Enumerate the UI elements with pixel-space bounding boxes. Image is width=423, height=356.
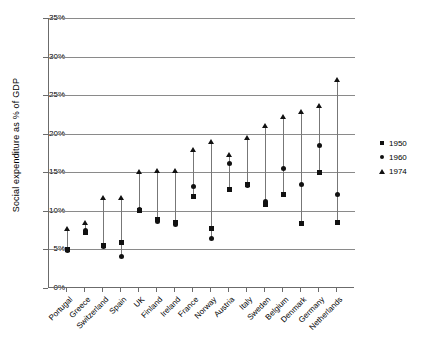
data-point-1974-portugal xyxy=(64,226,70,231)
data-point-1960-france xyxy=(191,184,196,189)
data-point-1974-finland xyxy=(154,168,160,173)
data-point-1974-greece xyxy=(82,220,88,225)
triangle-marker-icon xyxy=(378,169,386,174)
data-point-1960-portugal xyxy=(65,248,70,253)
range-connector xyxy=(139,172,140,211)
data-point-1960-ireland xyxy=(173,222,178,227)
data-point-1974-sweden xyxy=(262,123,268,128)
data-point-1960-netherlands xyxy=(335,192,340,197)
range-connector xyxy=(337,80,338,223)
data-point-1960-germany xyxy=(317,143,322,148)
circle-marker-icon xyxy=(378,155,386,159)
square-marker-icon xyxy=(378,141,386,145)
x-axis-tick-mark xyxy=(120,288,121,292)
data-point-1950-france xyxy=(191,194,196,199)
data-point-1974-austria xyxy=(226,152,232,157)
data-point-1974-spain xyxy=(118,195,124,200)
gridline xyxy=(49,172,355,173)
range-connector xyxy=(265,126,266,205)
range-connector xyxy=(229,155,230,190)
x-axis-tick-mark xyxy=(300,288,301,292)
x-axis-tick-mark xyxy=(192,288,193,292)
x-axis-tick-mark xyxy=(66,288,67,292)
data-point-1950-austria xyxy=(227,187,232,192)
gridline xyxy=(49,57,355,58)
data-point-1960-switzerland xyxy=(101,244,106,249)
data-point-1950-germany xyxy=(317,170,322,175)
legend-label: 1960 xyxy=(389,153,407,162)
gridline xyxy=(49,134,355,135)
x-axis-tick-mark xyxy=(228,288,229,292)
legend-item-1974[interactable]: 1974 xyxy=(378,164,407,178)
range-connector xyxy=(247,138,248,185)
data-point-1950-belgium xyxy=(281,192,286,197)
x-axis-tick-mark xyxy=(336,288,337,292)
data-point-1974-norway xyxy=(208,139,214,144)
data-point-1960-uk xyxy=(137,207,142,212)
data-point-1960-spain xyxy=(119,254,124,259)
y-axis-tick-mark xyxy=(43,288,48,289)
x-axis-tick-mark xyxy=(318,288,319,292)
data-point-1974-belgium xyxy=(280,114,286,119)
y-axis-label: Social expenditure as % of GDP xyxy=(11,45,21,245)
range-connector xyxy=(157,171,158,222)
data-point-1974-denmark xyxy=(298,109,304,114)
data-point-1950-spain xyxy=(119,240,124,245)
data-point-1960-finland xyxy=(155,219,160,224)
chart-legend: 195019601974 xyxy=(378,136,407,178)
gridline xyxy=(49,211,355,212)
data-point-1960-sweden xyxy=(263,199,268,204)
range-connector xyxy=(193,150,194,196)
range-connector xyxy=(211,142,212,238)
gridline xyxy=(49,249,355,250)
data-point-1974-switzerland xyxy=(100,195,106,200)
data-point-1950-netherlands xyxy=(335,220,340,225)
x-axis-tick-mark xyxy=(84,288,85,292)
gridline xyxy=(49,95,355,96)
range-connector xyxy=(283,117,284,195)
x-axis-tick-mark xyxy=(102,288,103,292)
data-point-1974-netherlands xyxy=(334,77,340,82)
data-point-1950-denmark xyxy=(299,221,304,226)
x-axis-tick-mark xyxy=(264,288,265,292)
x-axis-tick-mark xyxy=(174,288,175,292)
range-connector xyxy=(121,198,122,257)
x-axis-tick-mark xyxy=(246,288,247,292)
range-connector xyxy=(301,112,302,223)
data-point-1974-italy xyxy=(244,135,250,140)
x-axis-tick-mark xyxy=(156,288,157,292)
legend-label: 1950 xyxy=(389,139,407,148)
data-point-1950-norway xyxy=(209,226,214,231)
data-point-1974-germany xyxy=(316,103,322,108)
chart-container: Social expenditure as % of GDP 0%5%10%15… xyxy=(0,0,423,356)
range-connector xyxy=(319,106,320,172)
range-connector xyxy=(175,171,176,224)
data-point-1974-ireland xyxy=(172,168,178,173)
x-axis-tick-mark xyxy=(138,288,139,292)
data-point-1960-greece xyxy=(83,228,88,233)
plot-area xyxy=(48,18,354,288)
legend-label: 1974 xyxy=(389,167,407,176)
x-axis-tick-mark xyxy=(282,288,283,292)
data-point-1960-belgium xyxy=(281,166,286,171)
data-point-1960-norway xyxy=(209,236,214,241)
data-point-1960-austria xyxy=(227,161,232,166)
data-point-1960-denmark xyxy=(299,182,304,187)
data-point-1960-italy xyxy=(245,183,250,188)
data-point-1974-france xyxy=(190,147,196,152)
data-point-1974-uk xyxy=(136,169,142,174)
range-connector xyxy=(103,198,104,247)
legend-item-1960[interactable]: 1960 xyxy=(378,150,407,164)
legend-item-1950[interactable]: 1950 xyxy=(378,136,407,150)
x-axis-tick-mark xyxy=(210,288,211,292)
gridline xyxy=(49,18,355,19)
